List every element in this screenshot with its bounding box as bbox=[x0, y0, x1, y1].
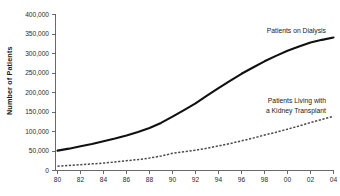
y-tick-label: 300,000 bbox=[25, 50, 49, 57]
y-tick-label: 400,000 bbox=[25, 11, 49, 18]
y-axis-tick-labels: 0 50,000 100,000 150,000 200,000 250,000… bbox=[25, 11, 49, 174]
x-tick-label: 82 bbox=[77, 176, 85, 183]
y-tick-label: 200,000 bbox=[25, 89, 49, 96]
x-axis-tick-labels: 80 82 84 86 88 90 92 94 96 98 00 02 04 bbox=[54, 176, 338, 183]
y-tick-label: 50,000 bbox=[29, 147, 50, 154]
x-tick-label: 90 bbox=[169, 176, 177, 183]
series-annotation-transplant-line1: Patients Living with bbox=[268, 97, 326, 105]
x-tick-label: 04 bbox=[330, 176, 338, 183]
x-axis-ticks bbox=[58, 171, 334, 175]
x-tick-label: 94 bbox=[215, 176, 223, 183]
y-tick-label: 150,000 bbox=[25, 108, 49, 115]
y-tick-label: 250,000 bbox=[25, 69, 49, 76]
x-tick-label: 84 bbox=[100, 176, 108, 183]
chart-container: Number of Patients 0 50,000 100,000 150,… bbox=[0, 0, 340, 196]
series-annotation-dialysis: Patients on Dialysis bbox=[267, 27, 327, 35]
y-tick-label: 0 bbox=[45, 167, 49, 174]
x-tick-label: 92 bbox=[192, 176, 200, 183]
x-tick-label: 88 bbox=[146, 176, 154, 183]
y-tick-label: 350,000 bbox=[25, 30, 49, 37]
x-tick-label: 80 bbox=[54, 176, 62, 183]
x-tick-label: 98 bbox=[261, 176, 269, 183]
x-tick-label: 02 bbox=[307, 176, 315, 183]
x-tick-label: 86 bbox=[123, 176, 131, 183]
x-tick-label: 96 bbox=[238, 176, 246, 183]
x-tick-label: 00 bbox=[284, 176, 292, 183]
series-line-patients-on-dialysis bbox=[58, 38, 334, 151]
y-tick-label: 100,000 bbox=[25, 128, 49, 135]
series-annotation-transplant-line2: a Kidney Transplant bbox=[266, 107, 326, 115]
y-axis-title: Number of Patients bbox=[5, 46, 14, 115]
series-line-kidney-transplant bbox=[58, 116, 334, 166]
y-axis-ticks bbox=[52, 15, 56, 171]
patients-line-chart: Number of Patients 0 50,000 100,000 150,… bbox=[0, 0, 340, 196]
